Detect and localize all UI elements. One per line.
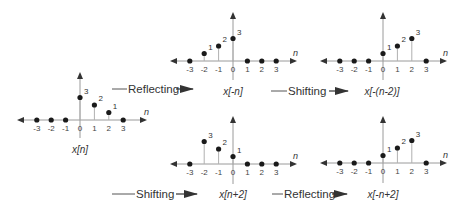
arrow-right-icon — [290, 161, 297, 167]
sample-point — [352, 58, 357, 63]
tick-label: -2 — [201, 168, 209, 177]
sample-point — [395, 43, 400, 48]
plot-x-neg-n-plus-2: n-3-2-10112233 — [320, 116, 448, 183]
sample-point — [245, 161, 250, 166]
sample-point — [352, 160, 357, 165]
tick-label: 0 — [231, 65, 236, 74]
tick-label: 0 — [78, 124, 83, 133]
tick-label: -1 — [215, 168, 223, 177]
operation-arrow-shifting-top: Shifting — [271, 85, 348, 97]
sample-point — [259, 161, 264, 166]
sample-point — [259, 58, 264, 63]
tick-label: 2 — [410, 167, 415, 176]
sample-point — [92, 102, 97, 107]
tick-label: -1 — [365, 167, 373, 176]
sample-point — [424, 58, 429, 63]
arrow-left-icon — [170, 161, 177, 167]
sample-point — [245, 58, 250, 63]
sample-point — [337, 160, 342, 165]
sample-point — [63, 117, 68, 122]
sample-point — [77, 95, 82, 100]
sample-value-label: 2 — [98, 94, 103, 103]
tick-label: 0 — [231, 168, 236, 177]
arrow-right-icon — [440, 58, 447, 64]
tick-label: 3 — [424, 167, 429, 176]
svg-text:Reflecting: Reflecting — [284, 188, 335, 200]
operation-arrow-reflecting-top: Reflecting — [112, 83, 193, 95]
sample-point — [409, 138, 414, 143]
plot-x-n: n-3-2-10312213 — [17, 72, 149, 138]
tick-label: -1 — [62, 124, 70, 133]
sample-point — [274, 161, 279, 166]
axis-variable-label: n — [144, 107, 149, 117]
tick-label: 1 — [395, 167, 400, 176]
axis-variable-label: n — [293, 151, 298, 161]
arrow-left-icon — [170, 58, 177, 64]
tick-label: 1 — [395, 65, 400, 74]
signal-label-x-n: x[n] — [71, 144, 88, 155]
tick-label: -2 — [351, 167, 359, 176]
axis-variable-label: n — [443, 48, 448, 58]
sample-point — [409, 36, 414, 41]
arrow-right-icon — [290, 58, 297, 64]
sample-value-label: 2 — [223, 138, 228, 147]
sample-point — [216, 146, 221, 151]
tick-label: -3 — [186, 65, 194, 74]
signal-transform-diagram: n-3-2-10312213 n-3-21-1203123 n-3-2-1011… — [0, 0, 465, 214]
plot-x-neg-n: n-3-21-1203123 — [170, 12, 298, 80]
arrow-up-icon — [380, 12, 386, 19]
sample-value-label: 3 — [237, 28, 242, 37]
tick-label: 2 — [107, 124, 112, 133]
signal-label-x-neg-n: x[-n] — [222, 86, 243, 97]
tick-label: 3 — [274, 65, 279, 74]
sample-point — [274, 58, 279, 63]
plot-x-n-plus-2: n-3-23-1201123 — [170, 116, 298, 184]
arrow-up-icon — [380, 116, 386, 123]
sample-point — [380, 153, 385, 158]
tick-label: 3 — [274, 168, 279, 177]
sample-point — [216, 43, 221, 48]
sample-value-label: 1 — [113, 102, 118, 111]
sample-point — [230, 154, 235, 159]
sample-value-label: 1 — [237, 146, 242, 155]
arrow-up-icon — [230, 116, 236, 123]
svg-text:Shifting: Shifting — [288, 85, 326, 97]
sample-value-label: 3 — [208, 131, 213, 140]
tick-label: -1 — [215, 65, 223, 74]
tick-label: 1 — [245, 65, 250, 74]
sample-value-label: 2 — [401, 35, 406, 44]
tick-label: -3 — [336, 167, 344, 176]
tick-label: -3 — [336, 65, 344, 74]
tick-label: -2 — [201, 65, 209, 74]
operation-arrow-shifting-bottom: Shifting — [112, 188, 197, 200]
tick-label: -2 — [351, 65, 359, 74]
tick-label: -2 — [48, 124, 56, 133]
tick-label: -3 — [186, 168, 194, 177]
sample-point — [366, 58, 371, 63]
sample-value-label: 2 — [401, 137, 406, 146]
tick-label: -1 — [365, 65, 373, 74]
sample-point — [395, 145, 400, 150]
axis-variable-label: n — [293, 48, 298, 58]
tick-label: 0 — [381, 65, 386, 74]
sample-point — [187, 58, 192, 63]
tick-label: 3 — [424, 65, 429, 74]
sample-point — [202, 139, 207, 144]
sample-point — [187, 161, 192, 166]
tick-label: 3 — [121, 124, 126, 133]
arrow-up-icon — [230, 12, 236, 19]
sample-point — [366, 160, 371, 165]
signal-label-x-n-plus-2: x[n+2] — [218, 189, 247, 200]
tick-label: 2 — [410, 65, 415, 74]
operation-arrow-reflecting-bottom: Reflecting — [272, 188, 347, 200]
sample-point — [121, 117, 126, 122]
sample-point — [49, 117, 54, 122]
sample-point — [202, 51, 207, 56]
sample-value-label: 1 — [387, 43, 392, 52]
arrow-left-icon — [320, 160, 327, 166]
tick-label: 1 — [245, 168, 250, 177]
arrow-left-icon — [17, 117, 24, 123]
tick-label: 2 — [260, 65, 265, 74]
arrow-left-icon — [320, 58, 327, 64]
sample-point — [230, 36, 235, 41]
